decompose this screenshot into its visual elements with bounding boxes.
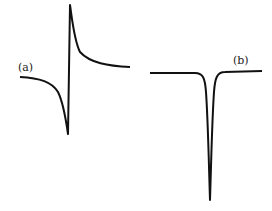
lineshape-curves [0, 0, 272, 211]
panel-label-b: (b) [233, 54, 249, 67]
curve-b [150, 71, 262, 200]
panel-label-a: (a) [18, 61, 33, 74]
curve-a [20, 5, 130, 134]
